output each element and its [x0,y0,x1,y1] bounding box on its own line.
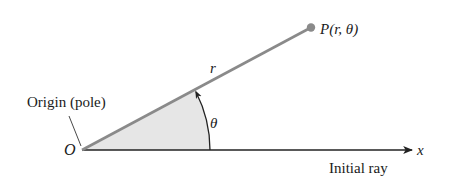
point-label: P(r, θ) [319,21,358,38]
initial-ray-label: Initial ray [329,160,388,176]
angle-label: θ [210,115,218,131]
origin-letter: O [64,141,76,158]
radius-label: r [210,60,216,76]
axis-label: x [416,142,424,158]
point-p [307,23,315,31]
diagram-svg: P(r, θ) r θ O Origin (pole) x Initial ra… [0,0,453,192]
origin-label: Origin (pole) [27,94,106,111]
polar-coordinates-diagram: P(r, θ) r θ O Origin (pole) x Initial ra… [0,0,453,192]
